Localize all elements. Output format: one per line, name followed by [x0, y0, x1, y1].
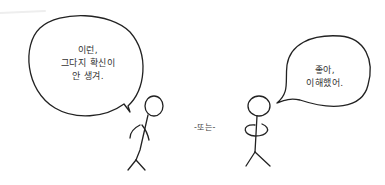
- right-figure-head: [248, 96, 270, 116]
- left-figure-head: [145, 96, 163, 116]
- separator-text: -또는-: [180, 121, 230, 134]
- left-figure-body: [136, 115, 148, 160]
- left-speech-line-2: 그다지 확신이: [52, 57, 124, 70]
- left-speech-line-3: 안 생겨.: [52, 70, 124, 83]
- left-speech-line-1: 이런,: [52, 44, 124, 57]
- comic-drawing: [0, 0, 385, 185]
- right-speech-text: 좋아, 이해했어.: [292, 64, 358, 90]
- right-speech-line-1: 좋아,: [292, 64, 358, 77]
- comic-panel: 이런, 그다지 확신이 안 생겨. 좋아, 이해했어. -또는-: [0, 0, 385, 185]
- right-figure-body: [255, 116, 257, 152]
- right-speech-line-2: 이해했어.: [292, 77, 358, 90]
- left-speech-text: 이런, 그다지 확신이 안 생겨.: [52, 44, 124, 83]
